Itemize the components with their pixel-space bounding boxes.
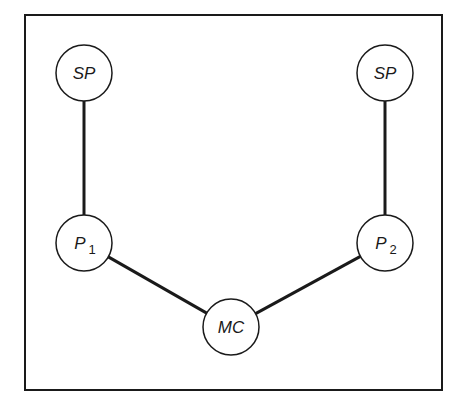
node-label: P xyxy=(74,234,86,253)
node-p1: P1 xyxy=(56,215,112,271)
node-subscript: 2 xyxy=(389,242,396,257)
nodes-layer: SPSPP1P2MC xyxy=(56,45,413,355)
node-sp-right: SP xyxy=(357,45,413,101)
edges-layer xyxy=(84,101,385,314)
node-sp-left: SP xyxy=(56,45,112,101)
edge-p1-to-mc xyxy=(108,257,206,313)
edge-p2-to-mc xyxy=(256,256,361,313)
node-mc: MC xyxy=(203,299,259,355)
node-subscript: 1 xyxy=(88,242,95,257)
node-label: P xyxy=(375,234,387,253)
network-diagram: SPSPP1P2MC xyxy=(0,0,461,404)
node-label: SP xyxy=(374,64,397,83)
node-label: MC xyxy=(218,318,245,337)
node-p2: P2 xyxy=(357,215,413,271)
node-label: SP xyxy=(73,64,96,83)
